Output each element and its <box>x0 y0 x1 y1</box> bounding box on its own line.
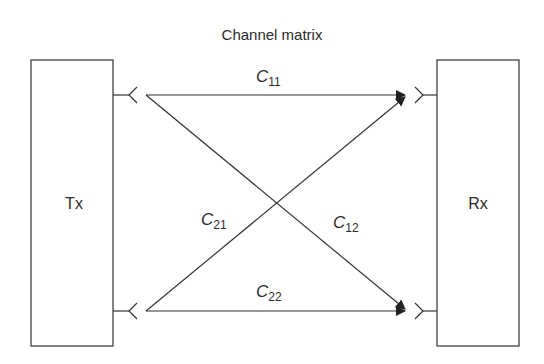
tx-block: Tx <box>31 60 113 346</box>
tx-antenna-2-icon <box>113 303 137 319</box>
rx-antenna-1-icon <box>415 87 437 103</box>
coef-c12-label: C12 <box>333 213 359 235</box>
coef-c21-label: C21 <box>201 210 227 232</box>
path-c12-arrow <box>146 95 405 309</box>
rx-antenna-2-icon <box>415 303 437 319</box>
rx-block: Rx <box>437 60 519 346</box>
rx-label: Rx <box>468 195 488 212</box>
tx-antenna-1-icon <box>113 87 137 103</box>
channel-matrix-diagram: Channel matrix Tx Rx C11 C21 C12 C22 <box>0 0 544 364</box>
diagram-title: Channel matrix <box>222 26 323 43</box>
coef-c11-label: C11 <box>256 67 281 89</box>
coef-c22-label: C22 <box>256 282 282 304</box>
path-c21-arrow <box>146 97 405 311</box>
tx-label: Tx <box>65 195 83 212</box>
